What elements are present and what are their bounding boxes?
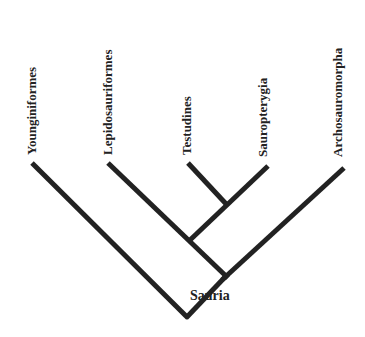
branch-testudines (188, 163, 228, 206)
taxon-label-testudines: Testudines (180, 96, 194, 155)
root-node-label: Sauria (190, 288, 230, 304)
cladogram-tree (0, 0, 365, 337)
taxon-label-younginiformes: Younginiformes (25, 67, 39, 155)
taxon-label-sauropterygia: Sauropterygia (256, 78, 270, 157)
taxon-label-lepidosauriformes: Lepidosauriformes (101, 50, 115, 155)
branch-younginiformes (32, 163, 188, 318)
taxon-label-archosauromorpha: Archosauromorpha (331, 48, 345, 157)
branch-archosauromorpha (222, 168, 344, 280)
